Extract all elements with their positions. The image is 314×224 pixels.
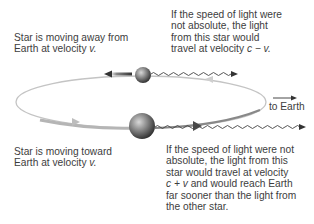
- caption-line: If the speed of light were: [171, 9, 282, 20]
- caption-line: star would travel at velocity: [166, 167, 296, 178]
- receding-star-icon: [135, 67, 151, 83]
- to-earth-arrow-icon: [273, 96, 297, 101]
- variable-v: v.: [89, 157, 96, 168]
- receding-star-caption: Star is moving away from Earth at veloci…: [14, 32, 128, 55]
- caption-line: Star is moving away from: [14, 32, 128, 43]
- approaching-star-icon: [129, 113, 155, 139]
- caption-line: from this star would: [171, 32, 282, 43]
- caption-line: Earth at velocity v.: [14, 43, 128, 54]
- approaching-light-caption: If the speed of light were not absolute,…: [166, 144, 296, 212]
- receding-light-caption: If the speed of light were not absolute,…: [171, 9, 282, 55]
- caption-line: travel at velocity c − v.: [171, 43, 282, 54]
- formula-c-minus-v: c − v.: [247, 43, 271, 54]
- caption-line: Star is moving toward: [14, 146, 112, 157]
- caption-line: not absolute, the light: [171, 20, 282, 31]
- formula-c-plus-v: c + v: [166, 178, 188, 189]
- caption-line: If the speed of light were not: [166, 144, 296, 155]
- caption-text: travel at velocity: [171, 43, 247, 54]
- orbit-arrow-icon: [193, 121, 202, 131]
- caption-line: c + v and would reach Earth: [166, 178, 296, 189]
- caption-line: far sooner than the light from: [166, 190, 296, 201]
- caption-text: Earth at velocity: [14, 157, 89, 168]
- caption-text: Earth at velocity: [14, 43, 89, 54]
- caption-line: absolute, the light from this: [166, 155, 296, 166]
- approaching-star-caption: Star is moving toward Earth at velocity …: [14, 146, 112, 169]
- caption-line: the other star.: [166, 201, 296, 212]
- caption-text: and would reach Earth: [188, 178, 293, 189]
- to-earth-label: to Earth: [269, 101, 305, 112]
- caption-line: Earth at velocity v.: [14, 157, 112, 168]
- variable-v: v.: [89, 43, 96, 54]
- orbit-arrow-icon: [205, 76, 213, 83]
